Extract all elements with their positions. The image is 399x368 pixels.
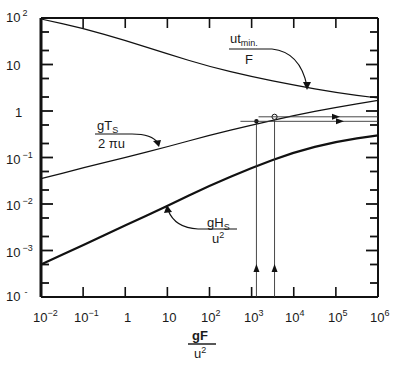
x-tick-label: 102 xyxy=(201,308,220,325)
axis-ticks xyxy=(41,18,378,297)
label-denominator: 2 πu xyxy=(98,136,125,151)
x-tick-label: 10−1 xyxy=(74,308,99,325)
curve-ghs-over-u2 xyxy=(41,135,378,264)
y-tick-label: 10- xyxy=(6,287,27,304)
pointer-arrow-line xyxy=(272,49,307,86)
pointer-arrow-line xyxy=(168,210,198,229)
label-ghs-over-u2: gHS u2 xyxy=(164,205,237,246)
x-tick-label: 104 xyxy=(285,308,304,325)
arrow-up-icon xyxy=(253,264,259,272)
x-label-denominator: u2 xyxy=(194,345,206,361)
arrow-right-icon xyxy=(336,118,344,124)
x-label-numerator: gF xyxy=(192,328,208,343)
curve-ut-min-over-f xyxy=(41,19,378,98)
x-tick-label: 10−2 xyxy=(33,308,58,325)
y-tick-label: 102 xyxy=(6,8,27,25)
y-axis-tick-labels: 102 10 1 10−1 10−2 10−3 10- xyxy=(6,8,33,304)
y-tick-label: 10−2 xyxy=(6,196,33,213)
label-numerator: gTS xyxy=(97,118,118,135)
x-axis-tick-labels: 10−2 10−1 1 10 102 103 104 105 106 xyxy=(33,308,389,325)
y-tick-label: 10−3 xyxy=(6,243,33,260)
arrowhead-icon xyxy=(153,140,161,147)
x-tick-label: 106 xyxy=(370,308,389,325)
y-tick-label: 10−1 xyxy=(6,150,33,167)
y-tick-label: 10 xyxy=(6,58,20,73)
label-ut-min-over-f: utmin. F xyxy=(229,31,311,90)
x-tick-label: 1 xyxy=(124,310,131,325)
curve-gts-over-2piu xyxy=(41,100,378,178)
label-gts-over-2piu: gTS 2 πu xyxy=(95,118,161,151)
label-numerator: utmin. xyxy=(230,31,258,48)
x-axis-label: gF u2 xyxy=(188,328,216,361)
annotation-lines xyxy=(240,114,378,297)
arrowhead-icon xyxy=(303,82,311,90)
chart-canvas: 10−2 10−1 1 10 102 103 104 105 106 102 1… xyxy=(0,0,399,368)
plot-frame xyxy=(41,18,378,297)
label-denominator: F xyxy=(245,52,253,67)
x-tick-label: 10 xyxy=(162,310,176,325)
x-tick-label: 103 xyxy=(244,308,263,325)
y-tick-label: 1 xyxy=(15,105,22,120)
arrow-up-icon xyxy=(272,264,278,272)
label-denominator: u2 xyxy=(212,230,224,246)
x-tick-label: 105 xyxy=(328,308,347,325)
